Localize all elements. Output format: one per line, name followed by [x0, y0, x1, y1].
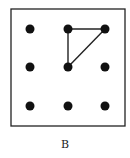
grid-dot: [101, 102, 110, 111]
dot-grid-figure: [0, 0, 130, 158]
grid-dot: [64, 63, 73, 72]
grid-dot: [26, 25, 35, 34]
grid-dot: [64, 102, 73, 111]
grid-dot: [101, 63, 110, 72]
grid-dot: [101, 25, 110, 34]
connecting-line: [68, 29, 105, 67]
grid-dot: [26, 102, 35, 111]
grid-dot: [64, 25, 73, 34]
figure-caption: B: [0, 138, 130, 151]
connecting-lines: [68, 29, 105, 67]
grid-dot: [26, 63, 35, 72]
